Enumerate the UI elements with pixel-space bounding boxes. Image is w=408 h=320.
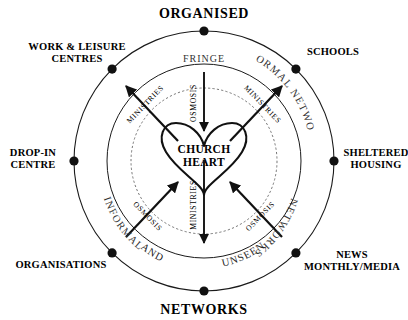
outer-label-news-line1: NEWS [336, 249, 368, 260]
quadrant-label-and: AND [139, 241, 166, 264]
outer-label-news-line2: MONTHLY/MEDIA [304, 261, 400, 272]
node-dot-organisations[interactable] [108, 248, 117, 257]
arrow-osmosis-lower-left [126, 182, 178, 237]
node-dot-sheltered[interactable] [329, 156, 338, 165]
church-heart-diagram: ORGANISED NETWORKS WORK & LEISURE CENTRE… [0, 0, 408, 320]
outer-label-sheltered-line1: SHELTERED [343, 147, 408, 158]
outer-label-work-leisure-line1: WORK & LEISURE [28, 41, 125, 52]
diagram-canvas: ORGANISED NETWORKS WORK & LEISURE CENTRE… [0, 0, 408, 320]
outer-label-organisations: ORGANISATIONS [15, 259, 106, 270]
outer-label-dropin-line1: DROP-IN [10, 147, 57, 158]
node-dot-organised[interactable] [199, 26, 208, 35]
node-dot-news[interactable] [291, 248, 300, 257]
fringe-label: FRINGE [183, 53, 225, 64]
outer-label-dropin-line2: CENTRE [11, 159, 56, 170]
outer-label-work-leisure-line2: CENTRES [52, 53, 103, 64]
cardinal-label-networks: NETWORKS [160, 302, 247, 317]
node-dot-work-leisure[interactable] [108, 65, 117, 74]
node-dot-schools[interactable] [291, 65, 300, 74]
cardinal-label-organised: ORGANISED [159, 6, 249, 21]
node-dot-networks[interactable] [199, 286, 208, 295]
outer-label-schools: SCHOOLS [307, 46, 359, 57]
arrow-label-ministries-bottom: MINISTRIES [189, 180, 198, 230]
node-dot-dropin[interactable] [69, 156, 78, 165]
heart-label-line1: CHURCH [178, 143, 231, 155]
arrow-label-osmosis-lower-right: OSMOSIS [244, 200, 277, 233]
outer-label-sheltered-line2: HOUSING [351, 159, 402, 170]
arrow-label-osmosis-top: OSMOSIS [189, 84, 198, 122]
arrow-label-osmosis-lower-left: OSMOSIS [131, 200, 164, 233]
